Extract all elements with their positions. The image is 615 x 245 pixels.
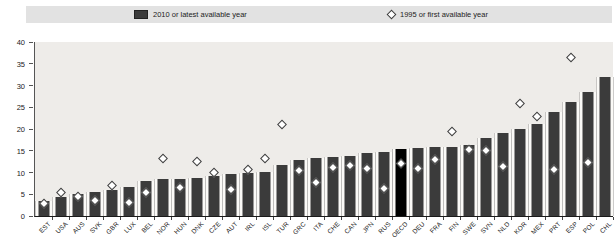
- bar-CHL: [596, 77, 613, 216]
- bar-slot-NOR: NOR: [154, 42, 171, 216]
- bar-slot-KOR: KOR: [511, 42, 528, 216]
- bar-slot-AUT: AUT: [222, 42, 239, 216]
- bar-slot-LUX: LUX: [120, 42, 137, 216]
- x-label-MEX: MEX: [530, 220, 545, 235]
- bar-chart: 0510152025303540 ESTUSAAUSSVKGBRLUXBELNO…: [0, 0, 615, 245]
- bar-TUR: [273, 165, 290, 216]
- bar-USA: [52, 197, 69, 216]
- y-tick-label-30: 30: [17, 81, 25, 90]
- x-label-CHL: CHL: [599, 220, 614, 235]
- x-label-NOR: NOR: [156, 220, 172, 236]
- bar-slot-GRC: GRC: [290, 42, 307, 216]
- diamond-NOR: [158, 154, 168, 164]
- bar-slot-DNK: DNK: [188, 42, 205, 216]
- bar-slot-USA: USA: [52, 42, 69, 216]
- bar-SWE: [460, 145, 477, 216]
- x-label-DEU: DEU: [411, 220, 426, 235]
- y-tick-label-10: 10: [17, 168, 25, 177]
- y-tick-label-25: 25: [17, 103, 25, 112]
- x-label-SVN: SVN: [479, 220, 494, 235]
- bar-slot-EST: EST: [35, 42, 52, 216]
- diamond-GBR: [107, 180, 117, 190]
- x-label-NLD: NLD: [497, 220, 512, 235]
- bar-slot-HUN: HUN: [171, 42, 188, 216]
- bar-slot-MEX: MEX: [528, 42, 545, 216]
- bar-slot-SWE: SWE: [460, 42, 477, 216]
- x-label-EST: EST: [38, 220, 52, 234]
- y-tick-mark-5: [29, 194, 33, 195]
- bar-slot-RUS: RUS: [375, 42, 392, 216]
- bar-AUT: [222, 174, 239, 216]
- y-tick-mark-15: [29, 150, 33, 151]
- diamond-FIN: [447, 127, 457, 137]
- x-label-FIN: FIN: [447, 220, 460, 233]
- y-axis: 0510152025303540: [0, 42, 34, 216]
- x-label-SWE: SWE: [461, 220, 477, 236]
- y-tick-mark-10: [29, 172, 33, 173]
- bar-DNK: [188, 178, 205, 216]
- y-tick-label-35: 35: [17, 59, 25, 68]
- x-label-GRC: GRC: [292, 220, 308, 236]
- bar-slot-ITA: ITA: [307, 42, 324, 216]
- x-label-BEL: BEL: [140, 220, 154, 234]
- diamond-DNK: [192, 157, 202, 167]
- x-label-TUR: TUR: [275, 220, 290, 235]
- x-label-POL: POL: [582, 220, 597, 235]
- y-tick-mark-25: [29, 107, 33, 108]
- x-label-ESP: ESP: [565, 220, 580, 235]
- y-tick-mark-0: [29, 216, 33, 217]
- bar-slot-ISL: ISL: [256, 42, 273, 216]
- bar-ESP: [562, 102, 579, 216]
- bar-slot-PRT: PRT: [545, 42, 562, 216]
- bar-slot-GBR: GBR: [103, 42, 120, 216]
- bar-slot-SVN: SVN: [477, 42, 494, 216]
- y-tick-mark-20: [29, 129, 33, 130]
- y-tick-label-40: 40: [17, 38, 25, 47]
- bar-slot-FIN: FIN: [443, 42, 460, 216]
- bar-slot-NLD: NLD: [494, 42, 511, 216]
- bar-slot-DEU: DEU: [409, 42, 426, 216]
- bar-ISL: [256, 172, 273, 216]
- bar-KOR: [511, 129, 528, 216]
- screenshot-root: 2010 or latest available year 1995 or fi…: [0, 0, 615, 245]
- x-label-SVK: SVK: [89, 220, 104, 235]
- bar-slot-TUR: TUR: [273, 42, 290, 216]
- diamond-ESP: [566, 53, 576, 63]
- bar-DEU: [409, 148, 426, 216]
- bar-slot-SVK: SVK: [86, 42, 103, 216]
- x-label-KOR: KOR: [513, 220, 528, 235]
- bar-slot-IRL: IRL: [239, 42, 256, 216]
- bar-slot-AUS: AUS: [69, 42, 86, 216]
- bar-slot-POL: POL: [579, 42, 596, 216]
- bar-GBR: [103, 190, 120, 216]
- x-label-CZE: CZE: [208, 220, 223, 235]
- x-label-USA: USA: [54, 220, 69, 235]
- diamond-ISL: [260, 154, 270, 164]
- x-label-CHE: CHE: [326, 220, 341, 235]
- y-tick-label-0: 0: [21, 212, 25, 221]
- diamond-TUR: [277, 119, 287, 129]
- y-tick-label-15: 15: [17, 146, 25, 155]
- y-tick-label-20: 20: [17, 125, 25, 134]
- bar-FIN: [443, 147, 460, 216]
- bar-BEL: [137, 181, 154, 216]
- bar-slot-CAN: CAN: [341, 42, 358, 216]
- diamond-KOR: [515, 98, 525, 108]
- x-label-OECD: OECD: [390, 220, 409, 239]
- bar-CZE: [205, 176, 222, 216]
- x-label-ISL: ISL: [261, 220, 273, 232]
- bar-slot-OECD: OECD: [392, 42, 409, 216]
- x-label-AUT: AUT: [225, 220, 240, 235]
- x-label-GBR: GBR: [105, 220, 120, 235]
- x-label-HUN: HUN: [173, 220, 188, 235]
- bar-NOR: [154, 179, 171, 216]
- bar-slot-ESP: ESP: [562, 42, 579, 216]
- bar-slot-CHL: CHL: [596, 42, 613, 216]
- bar-slot-JPN: JPN: [358, 42, 375, 216]
- x-label-LUX: LUX: [123, 220, 137, 234]
- bar-IRL: [239, 173, 256, 217]
- bar-slot-BEL: BEL: [137, 42, 154, 216]
- y-tick-mark-40: [29, 42, 33, 43]
- bar-POL: [579, 92, 596, 216]
- y-tick-mark-35: [29, 63, 33, 64]
